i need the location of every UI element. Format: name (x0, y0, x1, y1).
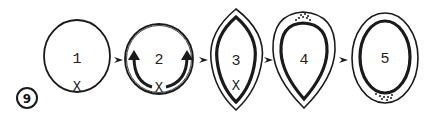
stage-5: 5 (352, 13, 418, 103)
stage-1: 1 X (44, 20, 110, 95)
stage-2: 2 X (125, 24, 193, 96)
stage-2-marker: X (155, 80, 164, 96)
arrowhead-right-icon (264, 57, 273, 63)
stage-4-label: 4 (299, 52, 308, 69)
stage-2-label: 2 (154, 52, 163, 69)
arrowhead-right-icon (339, 57, 348, 63)
arrowhead-up-left-icon (128, 50, 140, 60)
stage-4: 4 (273, 12, 335, 108)
stage-3-label: 3 (231, 53, 240, 70)
figure-number-badge: 9 (17, 88, 37, 108)
curved-arrow-left-icon (134, 57, 152, 87)
stage-3-marker: X (232, 78, 241, 94)
stage-3: 3 X (211, 9, 263, 110)
stage-1-label: 1 (72, 51, 81, 68)
arrowhead-right-icon (114, 57, 123, 63)
stage-diagram: 9 1 X 2 X 3 X 4 (0, 0, 437, 117)
arrowhead-right-icon (199, 57, 208, 63)
stage-5-label: 5 (380, 51, 389, 68)
badge-label: 9 (23, 92, 31, 106)
dots-cluster-top (295, 13, 311, 21)
stage-1-marker: X (73, 79, 82, 95)
